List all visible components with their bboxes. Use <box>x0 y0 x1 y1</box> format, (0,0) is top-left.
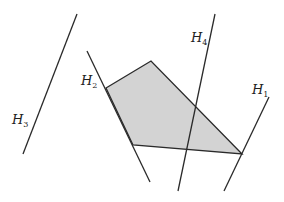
label-h2: H2 <box>80 73 97 90</box>
label-h1: H1 <box>251 82 268 99</box>
line-h3 <box>23 14 77 154</box>
label-h4: H4 <box>190 30 207 47</box>
feasible-region <box>106 61 242 154</box>
label-h3: H3 <box>11 112 28 129</box>
diagram-canvas: H2 H3 H4 H1 <box>0 0 284 202</box>
